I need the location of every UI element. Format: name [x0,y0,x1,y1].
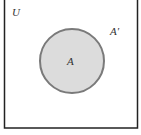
set-a-label: A [66,55,74,67]
venn-diagram: U A′ A [0,0,141,135]
universe-label: U [12,6,21,18]
complement-label: A′ [109,25,120,37]
